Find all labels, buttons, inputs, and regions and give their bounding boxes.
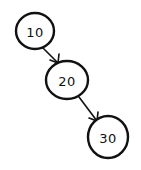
tree-node-20: 20 [46, 61, 88, 99]
tree-node-30: 30 [88, 116, 128, 158]
node-label: 20 [58, 74, 76, 89]
edge-line [79, 97, 97, 121]
tree-node-10: 10 [16, 13, 54, 49]
node-label: 30 [99, 131, 117, 146]
edge-20-to-30 [79, 97, 98, 121]
edge-10-to-20 [43, 48, 59, 63]
node-label: 10 [26, 25, 44, 40]
binary-tree-diagram: 10 20 30 [0, 0, 141, 170]
